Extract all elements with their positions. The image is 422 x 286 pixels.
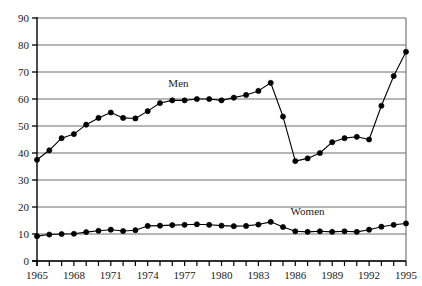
data-point-women	[354, 229, 359, 234]
data-point-women	[157, 223, 162, 228]
data-point-men	[280, 114, 285, 119]
series-line-men	[37, 52, 406, 161]
data-point-women	[317, 229, 322, 234]
data-point-men	[207, 96, 212, 101]
data-point-women	[145, 223, 150, 228]
data-point-women	[268, 219, 273, 224]
data-point-men	[379, 103, 384, 108]
series-annotation-men: Men	[168, 77, 189, 89]
data-point-women	[293, 229, 298, 234]
data-point-women	[367, 227, 372, 232]
data-point-men	[170, 98, 175, 103]
data-point-men	[231, 95, 236, 100]
data-point-women	[305, 229, 310, 234]
data-point-women	[182, 222, 187, 227]
data-point-men	[182, 98, 187, 103]
data-point-men	[194, 96, 199, 101]
axis-y-tick-label: 30	[18, 174, 30, 186]
axis-x-tick-label: 1992	[358, 269, 380, 281]
data-point-men	[108, 110, 113, 115]
axis-x-tick-label: 1995	[395, 269, 418, 281]
axis-y-tick-label: 20	[18, 201, 30, 213]
axis-x-tick-label: 1980	[211, 269, 234, 281]
data-point-women	[108, 227, 113, 232]
data-point-women	[84, 230, 89, 235]
data-point-women	[342, 229, 347, 234]
data-point-men	[84, 122, 89, 127]
data-point-men	[34, 157, 39, 162]
axis-x-tick-label: 1977	[174, 269, 197, 281]
data-point-women	[256, 222, 261, 227]
data-point-women	[231, 224, 236, 229]
axis-x-tick-label: 1986	[284, 269, 307, 281]
axis-x-tick-label: 1983	[247, 269, 270, 281]
data-point-men	[121, 115, 126, 120]
data-point-men	[391, 73, 396, 78]
data-point-men	[342, 136, 347, 141]
data-point-men	[268, 80, 273, 85]
data-point-women	[244, 223, 249, 228]
data-point-women	[379, 224, 384, 229]
axis-y-tick-label: 0	[24, 255, 30, 267]
data-point-women	[403, 221, 408, 226]
data-point-women	[34, 234, 39, 239]
data-point-men	[133, 116, 138, 121]
axis-y-tick-label: 10	[18, 228, 30, 240]
axis-x-tick-label: 1974	[137, 269, 160, 281]
axis-y-tick-label: 40	[18, 147, 30, 159]
data-point-men	[47, 148, 52, 153]
axis-y-tick-label: 50	[18, 120, 30, 132]
series-annotation-women: Women	[291, 205, 325, 217]
data-point-women	[219, 223, 224, 228]
data-point-men	[367, 137, 372, 142]
data-point-women	[71, 231, 76, 236]
axis-x-tick-label: 1965	[26, 269, 49, 281]
data-point-women	[133, 228, 138, 233]
data-point-women	[330, 229, 335, 234]
data-point-men	[293, 159, 298, 164]
data-point-women	[96, 228, 101, 233]
data-point-women	[47, 232, 52, 237]
line-chart: 0102030405060708090196519681971197419771…	[0, 0, 422, 286]
data-point-men	[256, 88, 261, 93]
data-point-women	[194, 222, 199, 227]
data-point-men	[403, 49, 408, 54]
data-point-women	[391, 222, 396, 227]
axis-y-tick-label: 90	[18, 12, 30, 24]
data-point-women	[280, 224, 285, 229]
data-point-men	[96, 115, 101, 120]
axis-y-tick-label: 60	[18, 93, 30, 105]
data-point-men	[145, 109, 150, 114]
data-point-men	[59, 136, 64, 141]
axis-x-tick-label: 1968	[63, 269, 86, 281]
data-point-women	[170, 222, 175, 227]
data-point-men	[354, 134, 359, 139]
data-point-men	[317, 150, 322, 155]
axis-x-tick-label: 1989	[321, 269, 344, 281]
axis-y-tick-label: 80	[18, 39, 30, 51]
data-point-men	[305, 156, 310, 161]
data-point-men	[157, 100, 162, 105]
axis-x-tick-label: 1971	[100, 269, 122, 281]
chart-canvas: 0102030405060708090196519681971197419771…	[0, 0, 422, 286]
data-point-men	[219, 98, 224, 103]
data-point-men	[244, 92, 249, 97]
data-point-men	[330, 140, 335, 145]
axis-y-tick-label: 70	[18, 66, 30, 78]
data-point-men	[71, 132, 76, 137]
data-point-women	[121, 228, 126, 233]
data-point-women	[207, 222, 212, 227]
data-point-women	[59, 231, 64, 236]
